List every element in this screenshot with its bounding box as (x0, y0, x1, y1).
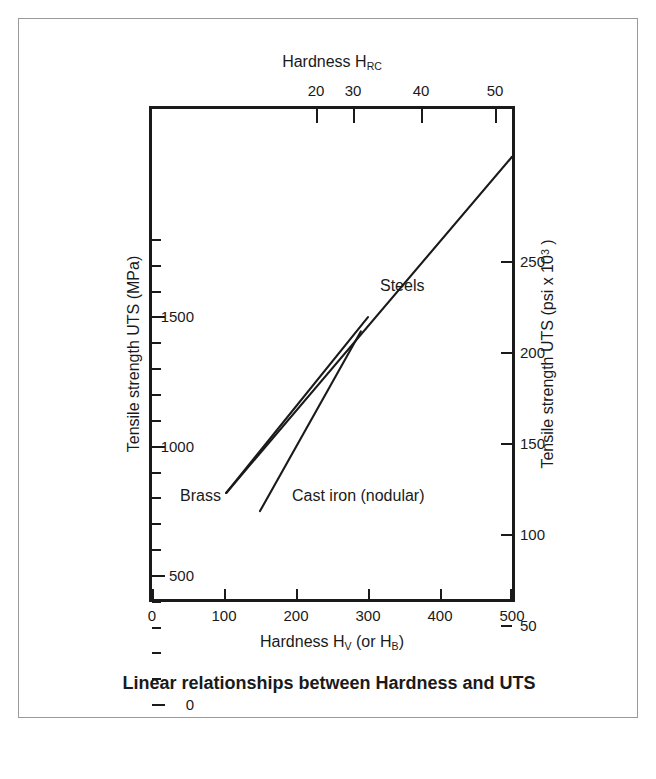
top-tick-label-30: 30 (345, 83, 362, 98)
data-series-layer (152, 109, 512, 599)
right-tick-label-100: 100 (520, 527, 545, 542)
series-line-brass (226, 317, 368, 493)
bottom-axis-title: Hardness HV (or HB) (260, 633, 404, 652)
bottom-tick-label-200: 200 (283, 608, 308, 623)
series-label-brass: Brass (180, 487, 221, 505)
series-line-cast-iron (260, 331, 361, 511)
bottom-tick-label-0: 0 (148, 608, 156, 623)
left-tick-label-0: 0 (186, 697, 194, 712)
plot-area: 0 500 1000 1500 50 100 150 200 250 (149, 106, 515, 602)
series-label-cast-iron: Cast iron (nodular) (292, 487, 425, 505)
bottom-tick-label-400: 400 (427, 608, 452, 623)
left-axis-title: Tensile strength UTS (MPa) (125, 256, 143, 453)
bottom-axis-labels: 0 100 200 300 400 500 (152, 608, 512, 630)
series-label-steels: Steels (380, 277, 424, 295)
series-line-steels (226, 157, 512, 493)
bottom-tick-label-300: 300 (355, 608, 380, 623)
right-axis-title: Tensile strength UTS (psi x 103 ) (539, 239, 558, 468)
figure-container: 0 500 1000 1500 50 100 150 200 250 (18, 18, 638, 718)
top-tick-label-50: 50 (487, 83, 504, 98)
top-axis-title: Hardness HRC (282, 53, 382, 72)
top-tick-label-40: 40 (413, 83, 430, 98)
top-tick-label-20: 20 (308, 83, 325, 98)
top-axis-labels: 20 30 40 50 (152, 83, 512, 105)
bottom-tick-label-100: 100 (211, 608, 236, 623)
figure-caption: Linear relationships between Hardness an… (19, 673, 639, 694)
bottom-tick-label-500: 500 (499, 608, 524, 623)
